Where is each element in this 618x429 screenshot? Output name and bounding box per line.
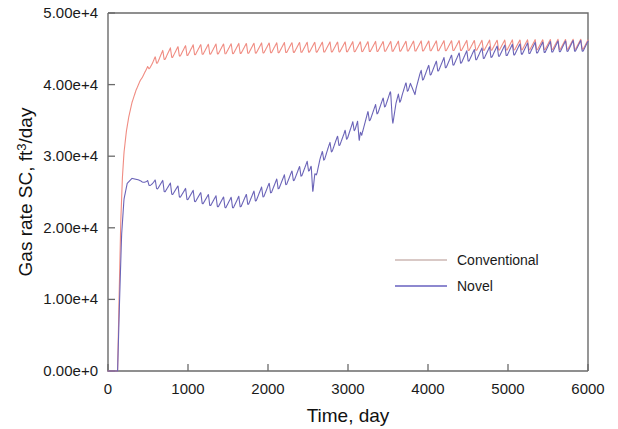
legend-label-novel: Novel bbox=[457, 278, 493, 294]
x-tick-label: 0 bbox=[104, 380, 112, 397]
y-tick-label: 1.00e+4 bbox=[43, 290, 98, 307]
x-tick-label: 1000 bbox=[171, 380, 204, 397]
y-axis-title-superscript: 3 bbox=[14, 144, 29, 151]
y-tick-label: 4.00e+4 bbox=[43, 76, 98, 93]
x-tick-label: 4000 bbox=[411, 380, 444, 397]
y-axis-title-tail: /day bbox=[15, 107, 36, 143]
y-tick-label: 3.00e+4 bbox=[43, 147, 98, 164]
legend-label-conventional: Conventional bbox=[457, 252, 539, 268]
x-axis-title: Time, day bbox=[307, 405, 390, 426]
y-tick-label: 0.00e+0 bbox=[43, 362, 98, 379]
x-tick-label: 2000 bbox=[251, 380, 284, 397]
y-axis-title-main: Gas rate SC, ft bbox=[15, 150, 36, 276]
gas-rate-chart: 0.00e+01.00e+42.00e+43.00e+44.00e+45.00e… bbox=[0, 0, 618, 429]
x-tick-label: 3000 bbox=[331, 380, 364, 397]
y-tick-label: 2.00e+4 bbox=[43, 219, 98, 236]
y-tick-label: 5.00e+4 bbox=[43, 4, 98, 21]
y-axis-title: Gas rate SC, ft3/day bbox=[14, 107, 36, 276]
chart-canvas: 0.00e+01.00e+42.00e+43.00e+44.00e+45.00e… bbox=[0, 0, 618, 429]
x-tick-label: 6000 bbox=[571, 380, 604, 397]
x-tick-label: 5000 bbox=[491, 380, 524, 397]
